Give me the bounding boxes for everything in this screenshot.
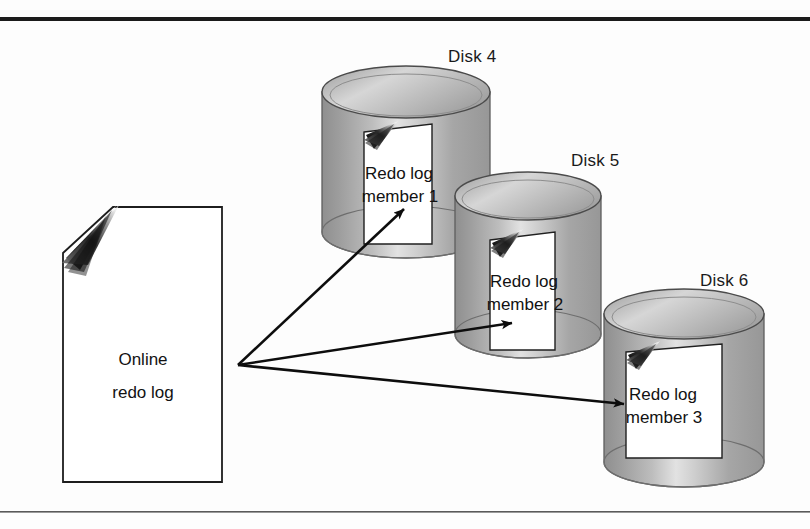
arrow-to-member-1 [238,209,404,365]
figure-svg [0,0,810,529]
figure-canvas: Disk 4 Disk 5 Disk 6 Redo log member 1 R… [0,0,810,529]
member-2-line1: Redo log [489,270,559,293]
member-2-line2: member 2 [485,293,565,316]
online-redo-log-line1: Online [103,348,183,371]
arrow-to-member-3 [238,365,624,404]
member-1-line1: Redo log [364,162,434,185]
online-redo-log-line2: redo log [98,381,188,404]
member-3-line1: Redo log [628,383,698,406]
disk-4-label: Disk 4 [448,47,496,67]
member-3-line2: member 3 [624,406,704,429]
disk-6-label: Disk 6 [700,271,748,291]
member-1-line2: member 1 [360,185,440,208]
disk-5-label: Disk 5 [571,151,619,171]
online-redo-log-document [62,205,222,482]
